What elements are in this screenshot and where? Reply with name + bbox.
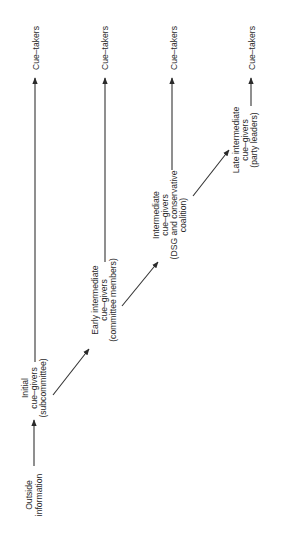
cue-takers-label-1: Cue–takers <box>31 26 41 70</box>
svg-text:Cue–takers: Cue–takers <box>169 26 179 70</box>
arrow-intermediate-to-late <box>193 150 229 196</box>
node-late-intermediate-cue-givers: Late intermediate cue–givers (party lead… <box>231 107 259 174</box>
cue-flow-diagram: Cue–takers Cue–takers Cue–takers Cue–tak… <box>0 0 294 557</box>
svg-text:Outside: Outside <box>24 480 34 510</box>
svg-text:Cue–takers: Cue–takers <box>31 26 41 70</box>
svg-text:Cue–takers: Cue–takers <box>100 26 110 70</box>
svg-text:information: information <box>34 474 44 517</box>
svg-text:(subcommittee): (subcommittee) <box>38 358 48 417</box>
arrow-early-to-intermediate <box>122 262 158 306</box>
arrow-initial-to-early <box>53 349 89 395</box>
node-initial-cue-givers: Initial cue–givers (subcommittee) <box>20 358 48 417</box>
cue-takers-label-2: Cue–takers <box>100 26 110 70</box>
svg-text:(party leaders): (party leaders) <box>249 112 259 168</box>
node-early-intermediate-cue-givers: Early intermediate cue–givers (committee… <box>90 258 118 342</box>
node-outside-information: Outside information <box>24 474 44 517</box>
svg-text:Cue–takers: Cue–takers <box>247 26 257 70</box>
cue-takers-label-4: Cue–takers <box>247 26 257 70</box>
node-intermediate-cue-givers: Intermediate cue–givers (DSG and conserv… <box>151 170 188 259</box>
cue-takers-label-3: Cue–takers <box>169 26 179 70</box>
svg-text:coalition): coalition) <box>178 198 188 233</box>
svg-text:(committee members): (committee members) <box>108 258 118 342</box>
